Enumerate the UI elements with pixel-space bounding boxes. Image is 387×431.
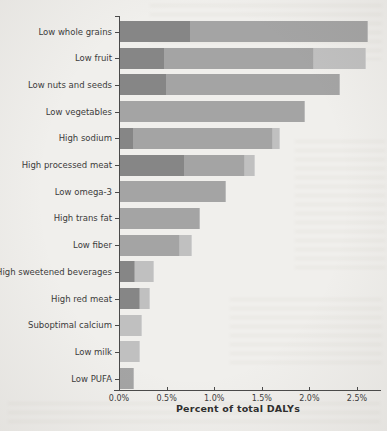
x-tick-label: 2.0% [292, 394, 326, 403]
category-label: Low whole grains [0, 27, 112, 37]
x-tick-label: 0.5% [150, 394, 184, 403]
bar-segment-dark [120, 48, 165, 69]
x-tick [262, 387, 263, 391]
bar-segment-medium [165, 48, 314, 69]
x-tick-label: 1.5% [245, 394, 279, 403]
y-tick [115, 325, 119, 326]
page-bleedthrough-right [295, 140, 385, 270]
category-label: Low nuts and seeds [0, 80, 112, 90]
bar-segment-medium [120, 368, 134, 389]
y-tick [115, 299, 119, 300]
category-label: High processed meat [0, 160, 112, 170]
category-label: Low omega-3 [0, 187, 112, 197]
x-tick-label: 2.5% [340, 394, 374, 403]
y-tick [115, 165, 119, 166]
bar-segment-light [314, 48, 365, 69]
page-bleedthrough-bottom-right [230, 298, 382, 370]
bar-segment-dark [120, 74, 167, 95]
bar-segment-light [245, 155, 255, 176]
bar-segment-medium [185, 155, 245, 176]
x-tick [214, 387, 215, 391]
bar-segment-medium [191, 21, 367, 42]
bar-segment-medium [120, 208, 200, 229]
x-tick [309, 387, 310, 391]
y-tick [115, 218, 119, 219]
category-label: Suboptimal calcium [0, 320, 112, 330]
category-label: High trans fat [0, 213, 112, 223]
y-tick [115, 32, 119, 33]
bar-segment-dark [120, 261, 135, 282]
dalys-stacked-bar-chart: Low whole grainsLow fruitLow nuts and se… [0, 0, 387, 431]
category-label: High red meat [0, 294, 112, 304]
y-tick [115, 138, 119, 139]
x-axis-line [114, 390, 381, 391]
x-tick-label: 0.0% [102, 394, 136, 403]
category-label: High sweetened beverages [0, 267, 112, 277]
y-tick [115, 352, 119, 353]
y-tick [115, 192, 119, 193]
bar-segment-light [135, 261, 154, 282]
bar-segment-light [180, 235, 192, 256]
y-tick [115, 58, 119, 59]
bar-segment-light [120, 315, 142, 336]
bar-segment-medium [167, 74, 340, 95]
bar-segment-dark [120, 155, 185, 176]
category-label: Low milk [0, 347, 112, 357]
x-tick [357, 387, 358, 391]
y-tick [115, 112, 119, 113]
x-tick [167, 387, 168, 391]
bar-segment-medium [120, 181, 226, 202]
bar-segment-light [140, 288, 150, 309]
category-label: High sodium [0, 133, 112, 143]
category-label: Low PUFA [0, 374, 112, 384]
bar-segment-light [120, 341, 140, 362]
category-label: Low vegetables [0, 107, 112, 117]
bar-segment-dark [120, 128, 134, 149]
y-tick [115, 272, 119, 273]
bar-segment-light [273, 128, 280, 149]
y-tick [115, 85, 119, 86]
x-axis-title: Percent of total DALYs [119, 403, 357, 414]
y-tick [115, 379, 119, 380]
bar-segment-dark [120, 288, 140, 309]
y-axis-top-tick [115, 16, 120, 17]
bar-segment-dark [120, 21, 191, 42]
category-label: Low fiber [0, 240, 112, 250]
bar-segment-medium [120, 235, 180, 256]
x-tick [119, 387, 120, 391]
y-tick [115, 245, 119, 246]
category-label: Low fruit [0, 53, 112, 63]
bar-segment-medium [120, 101, 305, 122]
bar-segment-medium [134, 128, 273, 149]
x-tick-label: 1.0% [197, 394, 231, 403]
